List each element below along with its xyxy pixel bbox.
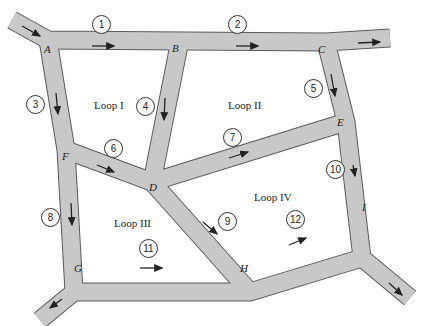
edge-number-6: 6 — [104, 139, 123, 158]
node-label-B: B — [172, 42, 179, 54]
edge-number-5: 5 — [304, 79, 323, 98]
edge-number-10: 10 — [326, 160, 345, 179]
edge-number-3: 3 — [26, 95, 45, 114]
edge-number-1: 1 — [92, 15, 111, 34]
loop-label-1: Loop I — [94, 99, 124, 111]
node-label-H: H — [240, 262, 248, 274]
loop-label-3: Loop III — [114, 217, 151, 229]
node-label-I: I — [362, 201, 366, 213]
node-label-F: F — [62, 150, 69, 162]
traffic-network-diagram: A B C D E F G H I Loop I Loop II Loop II… — [0, 0, 430, 326]
road-edges — [12, 20, 410, 320]
edge-number-12: 12 — [286, 210, 305, 229]
road-network — [0, 0, 430, 326]
edge-number-4: 4 — [136, 97, 155, 116]
loop-label-4: Loop IV — [254, 191, 292, 203]
edge-number-9: 9 — [218, 212, 237, 231]
node-label-A: A — [44, 43, 51, 55]
node-label-G: G — [74, 262, 82, 274]
node-label-C: C — [318, 43, 325, 55]
edge-number-2: 2 — [228, 15, 247, 34]
arrow-edge-12 — [289, 238, 306, 245]
loop-label-2: Loop II — [228, 99, 261, 111]
node-label-E: E — [337, 116, 344, 128]
edge-number-7: 7 — [223, 128, 242, 147]
edge-number-8: 8 — [41, 208, 60, 227]
node-label-D: D — [149, 181, 157, 193]
edge-number-11: 11 — [139, 239, 158, 258]
